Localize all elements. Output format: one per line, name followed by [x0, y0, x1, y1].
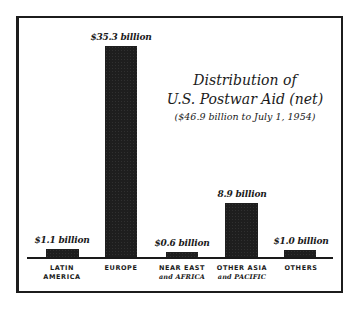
- x-axis-baseline: [27, 257, 333, 259]
- category-label-others: OTHERS: [284, 264, 317, 273]
- title-line-2: U.S. Postwar Aid (net): [165, 90, 325, 109]
- category-line-2: and PACIFIC: [217, 273, 267, 282]
- value-label-other-asia-pacific: 8.9 billion: [217, 189, 266, 199]
- category-label-near-east-africa: NEAR EAST and AFRICA: [159, 264, 205, 282]
- chart-subtitle: ($46.9 billion to July 1, 1954): [165, 109, 325, 124]
- category-line-1: EUROPE: [104, 264, 137, 273]
- category-label-europe: EUROPE: [104, 264, 137, 273]
- category-line-1: NEAR EAST: [159, 264, 205, 273]
- value-label-others: $1.0 billion: [273, 236, 328, 246]
- title-line-1: Distribution of: [165, 71, 325, 90]
- value-label-near-east-africa: $0.6 billion: [154, 238, 209, 248]
- category-line-1: OTHERS: [284, 264, 317, 273]
- bar-other-asia-pacific: [225, 203, 258, 258]
- category-label-latin-america: LATIN AMERICA: [43, 264, 80, 282]
- category-line-1: OTHER ASIA: [217, 264, 267, 273]
- category-line-1: LATIN: [43, 264, 80, 273]
- value-label-latin-america: $1.1 billion: [34, 235, 89, 245]
- value-label-europe: $35.3 billion: [90, 32, 151, 42]
- category-line-2: and AFRICA: [159, 273, 205, 282]
- category-line-2: AMERICA: [43, 273, 80, 282]
- bar-europe: [105, 46, 137, 258]
- chart-title: Distribution of U.S. Postwar Aid (net) (…: [165, 71, 325, 124]
- category-label-other-asia-pacific: OTHER ASIA and PACIFIC: [217, 264, 267, 282]
